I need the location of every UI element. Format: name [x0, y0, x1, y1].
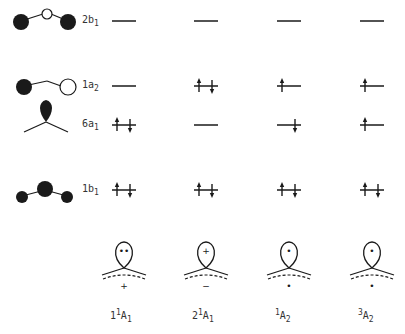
state-label-1: 21A1: [192, 308, 214, 324]
orbital-label-1b1: 1b1: [82, 183, 99, 197]
svg-text:+: +: [120, 281, 128, 291]
level-1a2-state-2: [277, 78, 301, 92]
state-pictograms: ••++−••••: [102, 242, 394, 291]
state-pictogram-0: ••+: [102, 242, 146, 291]
energy-levels: [112, 21, 384, 198]
svg-text:+: +: [202, 246, 210, 256]
level-1b1-state-1: [194, 182, 218, 198]
state-pictogram-3: ••: [350, 242, 394, 291]
level-1b1-state-2: [277, 182, 301, 198]
svg-text:•: •: [369, 246, 374, 256]
level-1b1-state-0: [112, 182, 136, 198]
svg-text:−: −: [202, 281, 210, 291]
level-6a1-state-3: [360, 117, 384, 131]
state-label-2: 1A2: [275, 308, 291, 324]
level-1a2-state-3: [360, 78, 384, 92]
svg-text:•: •: [369, 281, 374, 291]
state-label-0: 11A1: [110, 308, 132, 324]
orbital-label-2b1: 2b1: [82, 14, 99, 28]
level-6a1-state-2: [277, 119, 301, 133]
level-1a2-state-1: [194, 78, 218, 94]
level-6a1-state-0: [112, 117, 136, 133]
orbital-label-1a2: 1a2: [82, 79, 99, 93]
mo-diagram: ••++−••••: [0, 0, 405, 334]
svg-text:••: ••: [119, 246, 130, 256]
orbital-icon-1b1: [16, 181, 73, 203]
state-label-3: 3A2: [358, 308, 374, 324]
state-pictogram-2: ••: [267, 242, 311, 291]
orbital-icon-6a1: [24, 100, 68, 132]
state-pictogram-1: +−: [184, 242, 228, 291]
svg-text:•: •: [286, 246, 291, 256]
level-1b1-state-3: [360, 182, 384, 198]
svg-text:•: •: [286, 281, 291, 291]
orbital-label-6a1: 6a1: [82, 118, 99, 132]
orbital-icon-1a2: [16, 79, 76, 95]
orbital-icon-2b1: [13, 9, 76, 30]
